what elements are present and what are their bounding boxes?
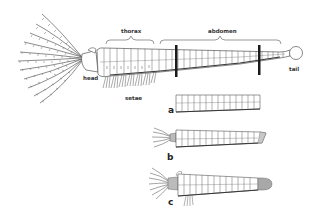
label-stage-a: a bbox=[168, 106, 174, 115]
label-setae: setae bbox=[125, 96, 142, 102]
stage-a-specimen bbox=[176, 95, 260, 112]
label-tail: tail bbox=[289, 67, 299, 73]
abdomen-band-front bbox=[175, 45, 178, 77]
label-thorax: thorax bbox=[121, 29, 141, 35]
label-abdomen: abdomen bbox=[208, 29, 237, 35]
abdomen-brace bbox=[160, 36, 281, 44]
head-capsule bbox=[82, 51, 99, 72]
antennae-fan bbox=[18, 14, 82, 103]
body-outline bbox=[97, 48, 290, 77]
organism-illustration bbox=[0, 0, 317, 218]
label-stage-c: c bbox=[168, 198, 173, 207]
tail-bulb bbox=[290, 47, 303, 60]
diagram-canvas: thorax abdomen head setae tail a b c bbox=[0, 0, 317, 218]
main-organism bbox=[18, 14, 303, 103]
label-head: head bbox=[83, 76, 98, 82]
thorax-brace bbox=[106, 36, 154, 44]
abdomen-band-rear bbox=[258, 45, 261, 75]
stage-b-specimen bbox=[152, 128, 266, 147]
label-stage-b: b bbox=[167, 153, 173, 162]
